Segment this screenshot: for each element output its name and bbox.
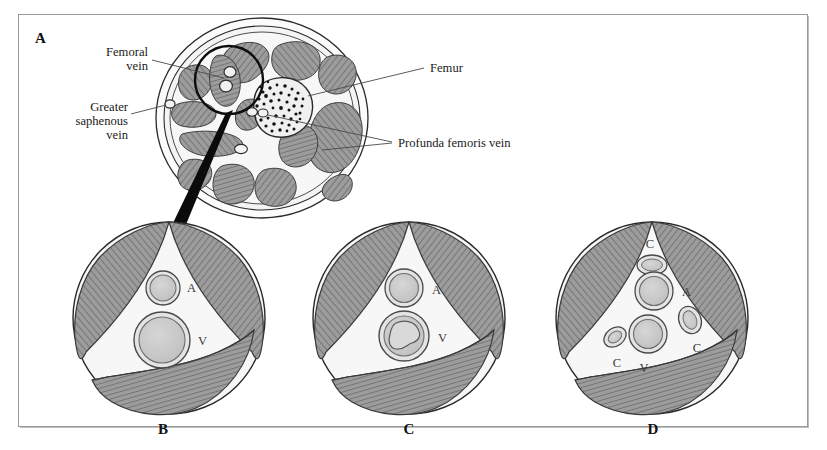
panel-d: C A V C bbox=[556, 222, 748, 437]
figure-root: A bbox=[0, 0, 827, 450]
label-femoral-vein-line2: vein bbox=[126, 59, 148, 73]
panel-c-vein-letter: V bbox=[438, 331, 447, 345]
femoral-vein-a bbox=[220, 80, 233, 92]
panel-a: A bbox=[35, 18, 511, 227]
panel-d-collateral-right-letter: C bbox=[693, 341, 701, 355]
panel-b-vein-letter: V bbox=[198, 334, 207, 348]
label-femur: Femur bbox=[430, 61, 464, 75]
label-gsv-line1: Greater bbox=[90, 100, 129, 114]
panel-c-letter: C bbox=[404, 421, 415, 437]
panel-c-vein bbox=[379, 311, 429, 361]
panel-c-artery bbox=[385, 269, 423, 307]
femoral-artery-a bbox=[224, 67, 236, 78]
panel-d-collateral-top-letter: C bbox=[646, 237, 654, 251]
label-gsv-line2: saphenous bbox=[76, 114, 129, 128]
panel-b-artery bbox=[146, 271, 180, 305]
greater-saphenous-vein-a bbox=[165, 100, 175, 108]
panel-b-vein bbox=[134, 312, 190, 368]
panel-d-vein bbox=[629, 315, 667, 353]
panel-b: A V B bbox=[73, 222, 265, 437]
panel-d-artery-letter: A bbox=[682, 285, 691, 299]
panel-c: A V C bbox=[313, 222, 505, 437]
label-greater-saphenous-vein: Greater saphenous vein bbox=[76, 100, 129, 142]
panel-b-letter: B bbox=[158, 421, 168, 437]
panel-d-collateral-left-letter: C bbox=[613, 356, 621, 370]
panel-a-letter: A bbox=[35, 30, 46, 46]
panel-c-artery-letter: A bbox=[432, 283, 441, 297]
label-profunda-femoris-vein: Profunda femoris vein bbox=[398, 136, 511, 150]
label-femoral-vein: Femoral vein bbox=[106, 45, 149, 73]
panel-d-artery bbox=[635, 272, 673, 310]
label-gsv-line3: vein bbox=[106, 128, 128, 142]
figure-canvas: A bbox=[0, 0, 827, 450]
panel-d-letter: D bbox=[648, 421, 659, 437]
profunda-femoris-artery-a bbox=[258, 109, 268, 117]
label-femoral-vein-line1: Femoral bbox=[106, 45, 148, 59]
panel-b-artery-letter: A bbox=[187, 281, 196, 295]
panel-d-vein-letter: V bbox=[639, 361, 648, 375]
sciatic-structure-a bbox=[235, 144, 248, 153]
